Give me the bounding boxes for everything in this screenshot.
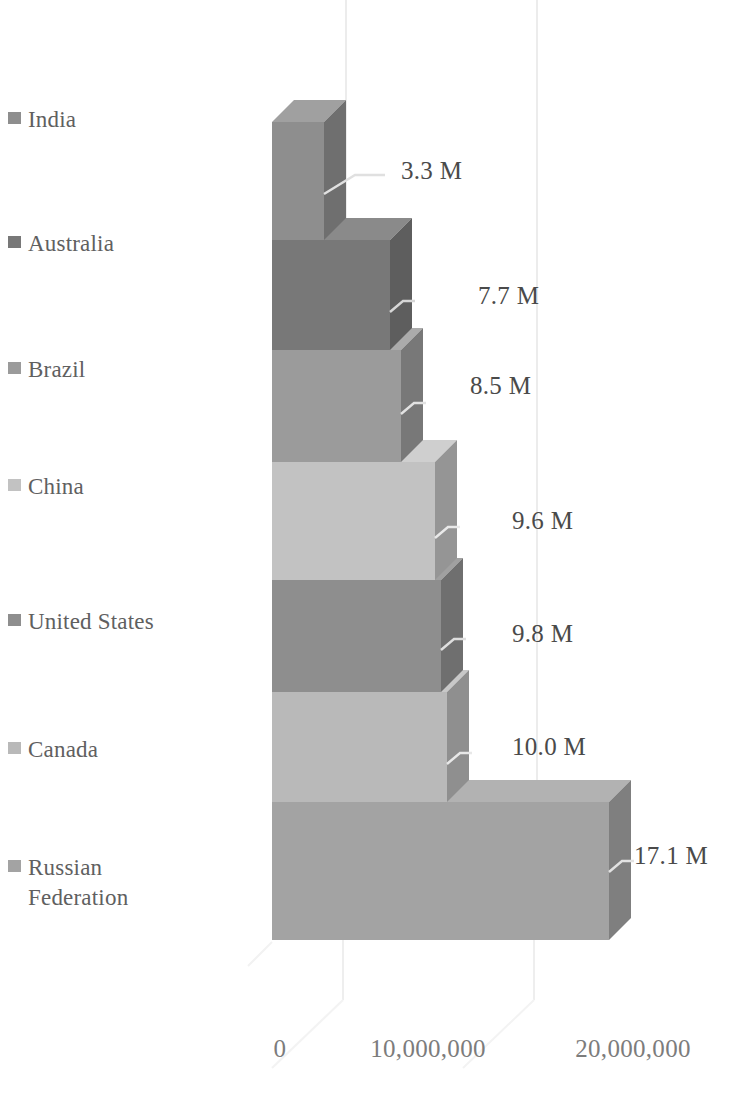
- data-label-canada: 10.0 M: [512, 734, 586, 760]
- data-label-brazil: 8.5 M: [470, 373, 531, 399]
- data-label-china: 9.6 M: [512, 508, 573, 534]
- plot-area: [0, 0, 736, 1097]
- data-label-india: 3.3 M: [401, 158, 462, 184]
- bar-chart: India Australia Brazil China United Stat…: [0, 0, 736, 1097]
- x-tick-label-1: 10,000,000: [370, 1036, 486, 1062]
- data-label-united-states: 9.8 M: [512, 621, 573, 647]
- bar-russian-federation[interactable]: [272, 780, 634, 940]
- x-tick-label-0: 0: [274, 1036, 287, 1062]
- data-label-australia: 7.7 M: [478, 283, 539, 309]
- data-label-russian-federation: 17.1 M: [634, 843, 708, 869]
- x-tick-label-2: 20,000,000: [575, 1036, 691, 1062]
